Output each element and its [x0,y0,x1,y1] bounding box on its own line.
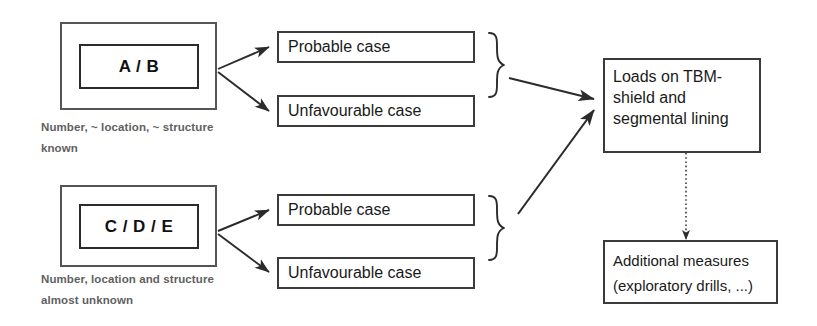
group-ab-class-box[interactable]: A / B [79,44,199,89]
measures-line-2: (exploratory drills, ...) [613,273,776,298]
case-label-cde-probable: Probable case [279,201,390,219]
case-label-ab-probable: Probable case [279,38,390,56]
brace-lower [489,196,504,260]
case-box-cde-unfavourable[interactable]: Unfavourable case [277,257,475,289]
group-ab-caption: Number, ~ location, ~ structure known [41,117,291,159]
group-cde-caption-line2: almost unknown [41,290,291,311]
case-label-cde-unfavourable: Unfavourable case [279,264,421,282]
case-box-ab-unfavourable[interactable]: Unfavourable case [277,95,475,127]
arrow-cde-to-unfavourable [218,234,269,272]
case-box-cde-probable[interactable]: Probable case [277,194,475,226]
arrow-upper-to-loads [509,78,594,99]
measures-box[interactable]: Additional measures (exploratory drills,… [603,240,778,304]
brace-upper [489,33,504,97]
measures-line-1: Additional measures [613,248,776,273]
group-cde-class-label: C / D / E [105,217,174,237]
loads-line-1: Loads on TBM- [613,66,759,87]
group-cde-caption: Number, location and structure almost un… [41,269,291,311]
group-ab-caption-line1: Number, ~ location, ~ structure [41,117,291,138]
case-box-ab-probable[interactable]: Probable case [277,31,475,63]
loads-line-2: shield and [613,87,759,108]
case-label-ab-unfavourable: Unfavourable case [279,102,421,120]
group-cde-caption-line1: Number, location and structure [41,269,291,290]
loads-box[interactable]: Loads on TBM- shield and segmental linin… [603,58,761,153]
group-cde-class-box[interactable]: C / D / E [79,204,199,249]
group-ab-class-label: A / B [119,57,160,77]
arrow-lower-to-loads [518,110,594,214]
diagram-canvas: A / B Number, ~ location, ~ structure kn… [0,0,817,326]
group-ab-caption-line2: known [41,138,291,159]
arrow-cde-to-probable [218,210,269,231]
arrow-ab-to-unfavourable [218,72,269,111]
arrow-ab-to-probable [218,47,269,69]
loads-line-3: segmental lining [613,108,759,129]
